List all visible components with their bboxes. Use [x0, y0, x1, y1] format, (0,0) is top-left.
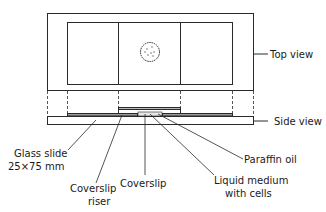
diagram-canvas: Top view Side view Glass slide 25×75 mm …: [0, 0, 326, 212]
label-liquid-medium: Liquid medium: [214, 175, 288, 186]
side-view: [48, 108, 269, 125]
side-view-riser-left: [68, 114, 138, 117]
label-glass-slide: Glass slide: [14, 148, 68, 159]
label-paraffin-oil: Paraffin oil: [244, 154, 297, 165]
label-glass-slide-size: 25×75 mm: [8, 161, 65, 172]
side-view-coverslip: [119, 108, 181, 110]
side-view-label: Side view: [274, 116, 322, 127]
top-view-outer-slide: [48, 14, 254, 91]
top-view-label: Top view: [269, 49, 313, 60]
side-view-riser-right: [163, 114, 233, 117]
top-view: [48, 14, 269, 91]
cells-dots: [144, 46, 154, 56]
side-view-glass-slide: [48, 117, 254, 125]
label-coverslip-riser-2: riser: [88, 196, 111, 207]
label-liquid-medium-2: with cells: [225, 188, 272, 199]
top-view-inner-riser: [68, 23, 233, 85]
label-coverslip: Coverslip: [120, 178, 166, 189]
label-coverslip-riser: Coverslip: [70, 183, 116, 194]
leader-coverslip-riser: [96, 115, 122, 183]
cell-drop-icon: [141, 43, 160, 62]
